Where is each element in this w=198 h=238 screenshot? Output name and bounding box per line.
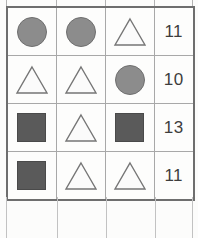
square-shape-icon — [115, 113, 144, 142]
value-cell[interactable]: 11 — [154, 7, 194, 56]
triangle-shape-icon — [113, 17, 147, 47]
square-shape-icon — [17, 161, 46, 190]
shape-cell-content — [8, 8, 56, 55]
shape-cell-content — [8, 152, 56, 199]
shape-cell[interactable] — [105, 56, 154, 104]
bottom-partial-row — [6, 197, 193, 238]
shape-cell[interactable] — [7, 152, 56, 201]
shape-cell[interactable] — [7, 7, 56, 56]
bottom-partial-divider — [106, 197, 107, 238]
shape-cell[interactable] — [105, 152, 154, 201]
triangle-shape-icon — [64, 65, 98, 95]
shape-cell[interactable] — [7, 104, 56, 152]
circle-shape-icon — [66, 17, 96, 47]
shape-cell-content — [106, 8, 154, 55]
shape-cell[interactable] — [56, 56, 105, 104]
circle-shape-icon — [17, 17, 47, 47]
table-row: 13 — [7, 104, 194, 152]
shape-cell[interactable] — [105, 7, 154, 56]
shape-cell[interactable] — [56, 152, 105, 201]
triangle-shape-icon — [15, 65, 49, 95]
shape-cell[interactable] — [56, 7, 105, 56]
shape-cell[interactable] — [7, 56, 56, 104]
table-row: 10 — [7, 56, 194, 104]
row-value: 10 — [164, 70, 184, 89]
shape-cell-content — [8, 56, 56, 103]
row-value: 13 — [164, 118, 184, 137]
shape-cell-content — [57, 56, 105, 103]
triangle-shape-icon — [113, 161, 147, 191]
shape-cell-content — [57, 8, 105, 55]
shape-cell-content — [57, 104, 105, 151]
grid-body: 11101311 — [7, 7, 194, 200]
triangle-shape-icon — [64, 113, 98, 143]
shape-count-grid: 11101311 — [6, 6, 195, 201]
shape-cell[interactable] — [105, 104, 154, 152]
shape-cell-content — [106, 56, 154, 103]
square-shape-icon — [17, 113, 46, 142]
bottom-partial-divider — [57, 197, 58, 238]
value-cell[interactable]: 13 — [154, 104, 194, 152]
shape-cell-content — [106, 104, 154, 151]
row-value: 11 — [164, 166, 183, 185]
circle-shape-icon — [115, 65, 145, 95]
shape-cell-content — [106, 152, 154, 199]
shape-cell[interactable] — [56, 104, 105, 152]
scanned-page: 11101311 — [0, 0, 198, 238]
table-row: 11 — [7, 7, 194, 56]
shape-cell-content — [8, 104, 56, 151]
table-row: 11 — [7, 152, 194, 201]
triangle-shape-icon — [64, 161, 98, 191]
shape-cell-content — [57, 152, 105, 199]
bottom-partial-divider — [155, 197, 156, 238]
value-cell[interactable]: 11 — [154, 152, 194, 201]
row-value: 11 — [164, 22, 183, 41]
value-cell[interactable]: 10 — [154, 56, 194, 104]
